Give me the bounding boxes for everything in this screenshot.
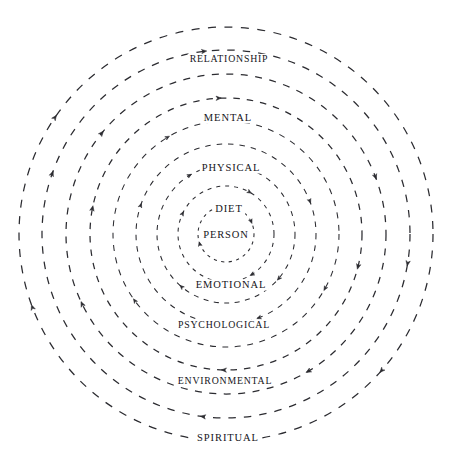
flow-arrow-icon bbox=[29, 304, 35, 310]
flow-arrow-icon bbox=[180, 211, 185, 217]
flow-arrow-icon bbox=[79, 301, 85, 308]
flow-arrow-icon bbox=[305, 368, 312, 374]
ring-label-relationship: RELATIONSHIP bbox=[188, 54, 271, 64]
ring-label-spiritual: SPIRITUAL bbox=[195, 432, 261, 443]
ring-label-mental: MENTAL bbox=[202, 112, 254, 123]
flow-arrow-icon bbox=[165, 135, 171, 140]
flow-arrow-icon bbox=[49, 170, 55, 176]
flow-arrow-icon bbox=[138, 203, 143, 208]
ring-label-physical: PHYSICAL bbox=[200, 162, 263, 173]
ring-label-psychological: PSYCHOLOGICAL bbox=[176, 320, 272, 330]
flow-arrow-icon bbox=[221, 368, 226, 373]
ring-label-person: PERSON bbox=[201, 229, 251, 240]
ring-label-environmental: ENVIRONMENTAL bbox=[176, 376, 275, 386]
flow-arrow-icon bbox=[247, 189, 253, 194]
concentric-rings-diagram: PERSONDIETEMOTIONALPHYSICALPSYCHOLOGICAL… bbox=[0, 0, 450, 470]
flow-arrow-icon bbox=[373, 174, 379, 180]
flow-arrow-icon bbox=[322, 286, 327, 292]
flow-arrow-icon bbox=[197, 241, 202, 246]
flow-arrow-icon bbox=[249, 219, 254, 224]
flow-arrow-icon bbox=[307, 198, 312, 203]
ring-label-emotional: EMOTIONAL bbox=[194, 279, 269, 290]
ring-label-diet: DIET bbox=[213, 203, 245, 214]
flow-arrow-icon bbox=[405, 260, 410, 266]
flow-arrow-icon bbox=[216, 96, 221, 101]
